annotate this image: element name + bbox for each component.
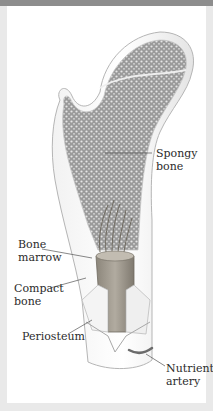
label-bone-marrow: Bone marrow: [18, 238, 62, 264]
bone-illustration: [0, 0, 213, 411]
label-compact-bone: Compact bone: [14, 282, 64, 308]
label-spongy-bone: Spongy bone: [156, 147, 198, 173]
label-periosteum: Periosteum: [22, 330, 85, 343]
label-nutrient-artery: Nutrient artery: [166, 362, 213, 388]
